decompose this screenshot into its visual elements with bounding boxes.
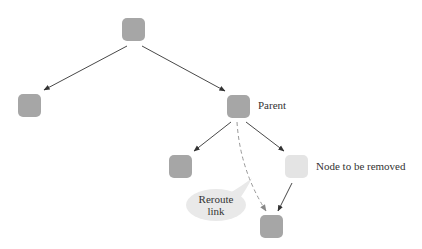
edge-removed-grandchild xyxy=(278,183,292,211)
grandchild-node xyxy=(260,215,283,238)
parent-left-child-node xyxy=(169,155,192,178)
edge-parent-removed xyxy=(246,122,284,151)
edge-root-left xyxy=(44,46,127,90)
left-node xyxy=(18,94,41,117)
callout-line-1: Reroute xyxy=(188,193,244,205)
callout-line-2: link xyxy=(188,205,244,217)
node-to-be-removed xyxy=(285,155,308,178)
parent-node xyxy=(227,95,250,118)
removed-node-label: Node to be removed xyxy=(316,160,406,172)
parent-label: Parent xyxy=(258,99,286,111)
edge-root-parent xyxy=(142,46,225,91)
reroute-link-label: Reroute link xyxy=(188,193,244,217)
root-node xyxy=(122,18,145,41)
edge-parent-left xyxy=(194,122,231,151)
